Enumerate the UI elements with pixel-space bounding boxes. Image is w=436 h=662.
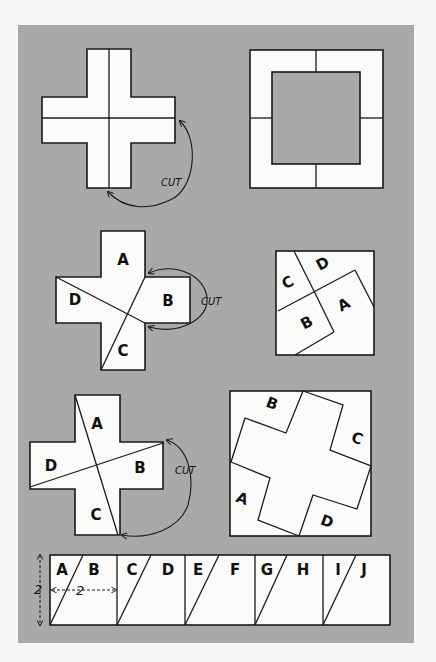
square-assembled-1: C D A B <box>276 251 374 355</box>
height-dimension-label: 2 <box>34 582 42 597</box>
strip-label-d: D <box>162 561 174 579</box>
cross-plain: CUT <box>42 49 192 207</box>
piece-label-d: D <box>45 457 57 475</box>
square-assembled-2: B C A D <box>230 391 371 536</box>
cut-label: CUT <box>161 177 182 188</box>
piece-label-a: A <box>91 415 103 433</box>
cross-cut-2: A B C D CUT <box>30 395 196 536</box>
piece-label-a: A <box>117 251 129 269</box>
strip-label-h: H <box>297 561 310 579</box>
square-frame <box>250 50 383 188</box>
piece-label-c: C <box>90 506 101 524</box>
piece-label-d: D <box>69 291 81 309</box>
cut-label: CUT <box>201 296 222 307</box>
cross-cut-1: A B C D CUT <box>56 231 222 370</box>
cut-label: CUT <box>175 465 196 476</box>
strip-label-e: E <box>193 561 203 579</box>
width-dimension-label: 2 <box>76 583 84 598</box>
strip-of-pieces: A B C D E F G H I J 2 2 <box>34 555 390 625</box>
piece-label-b: B <box>162 292 173 310</box>
strip-label-f: F <box>230 561 240 579</box>
strip-label-b: B <box>88 561 99 579</box>
strip-label-i: I <box>335 561 341 579</box>
piece-label-c: C <box>117 342 128 360</box>
piece-label-b: B <box>134 459 145 477</box>
strip-label-j: J <box>360 561 367 579</box>
strip-label-a: A <box>56 561 68 579</box>
dissection-diagram: CUT A B C D CUT C D A B A <box>0 0 436 662</box>
strip-label-c: C <box>126 561 137 579</box>
strip-label-g: G <box>261 561 273 579</box>
